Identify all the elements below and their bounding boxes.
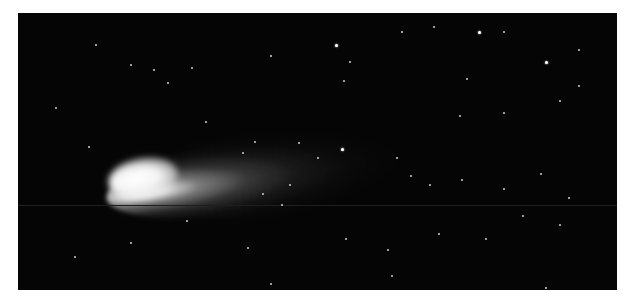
star	[167, 82, 169, 84]
star	[345, 238, 347, 240]
star	[578, 85, 580, 87]
star	[349, 61, 351, 63]
star	[130, 242, 132, 244]
star	[95, 44, 97, 46]
star	[503, 112, 505, 114]
star	[191, 67, 193, 69]
star	[317, 157, 319, 159]
star	[74, 256, 76, 258]
star	[186, 220, 188, 222]
star	[343, 80, 345, 82]
star	[270, 55, 272, 57]
star	[130, 64, 132, 66]
star	[335, 44, 338, 47]
star	[289, 184, 291, 186]
star	[153, 69, 155, 71]
star	[522, 215, 524, 217]
star	[578, 49, 580, 51]
star	[270, 283, 272, 285]
star	[298, 142, 300, 144]
star	[545, 287, 547, 289]
star	[503, 188, 505, 190]
star	[341, 148, 344, 151]
star	[466, 78, 468, 80]
star	[88, 146, 90, 148]
star	[205, 121, 207, 123]
star	[485, 238, 487, 240]
star	[433, 26, 435, 28]
star	[461, 179, 463, 181]
star	[459, 115, 461, 117]
comet-photo	[18, 13, 617, 290]
star	[55, 107, 57, 109]
star	[387, 249, 389, 251]
star	[281, 204, 283, 206]
star	[568, 197, 570, 199]
star	[559, 224, 561, 226]
star	[429, 184, 431, 186]
star	[540, 173, 542, 175]
star	[410, 175, 412, 177]
sensor-scanline	[18, 205, 617, 206]
star	[396, 157, 398, 159]
star	[545, 61, 548, 64]
star	[503, 31, 505, 33]
star	[438, 233, 440, 235]
star	[559, 100, 561, 102]
star	[254, 141, 256, 143]
star	[478, 31, 481, 34]
star	[247, 247, 249, 249]
star	[391, 275, 393, 277]
star	[401, 31, 403, 33]
